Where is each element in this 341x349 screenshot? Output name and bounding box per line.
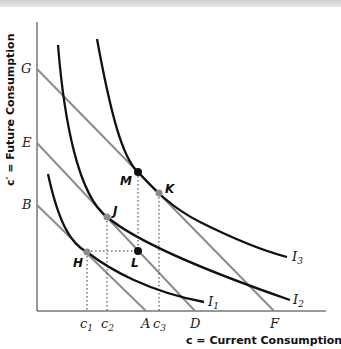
label-i3: I3: [291, 249, 303, 266]
label-m: M: [120, 174, 132, 188]
x-axis-title: c = Current Consumption: [186, 334, 341, 347]
indifference-curve-i3: [97, 39, 287, 257]
point-m: [134, 168, 142, 176]
label-l: L: [131, 256, 139, 270]
point-j: [104, 214, 111, 221]
label-h: H: [73, 256, 83, 270]
label-g: G: [21, 61, 31, 76]
label-f: F: [269, 316, 280, 331]
label-a: A: [140, 316, 150, 331]
label-c1: c1: [80, 316, 93, 333]
label-b: B: [21, 197, 32, 212]
label-e: E: [21, 135, 32, 150]
label-c3: c3: [153, 316, 166, 333]
label-j: J: [111, 204, 118, 218]
label-d: D: [189, 316, 201, 331]
y-axis-title: c′ = Future Consumption: [4, 34, 17, 187]
label-c2: c2: [101, 316, 114, 333]
budget-line-ba: [37, 205, 146, 311]
label-k: K: [165, 182, 176, 196]
chart: H J L M K G E B c1 c2 A c3 D F I1 I2 I3 …: [0, 0, 341, 349]
point-l: [134, 247, 142, 255]
indifference-curve-i2: [58, 45, 290, 300]
label-i1: I1: [207, 294, 219, 311]
point-k: [156, 190, 163, 197]
point-h: [84, 249, 91, 256]
label-i2: I2: [292, 292, 304, 309]
